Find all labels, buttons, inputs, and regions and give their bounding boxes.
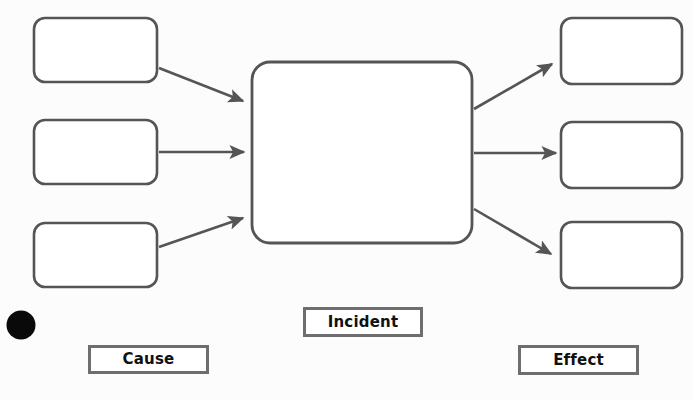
arrow-incident-to-effect-3 (474, 209, 551, 254)
diagram-canvas: Cause Incident Effect (0, 0, 693, 400)
cause-box-1[interactable] (34, 18, 157, 82)
arrow-cause-3-to-incident (159, 218, 243, 247)
legend-cause-box[interactable]: Cause (88, 345, 209, 374)
legend-effect-label: Effect (553, 353, 604, 368)
legend-incident-box[interactable]: Incident (303, 307, 423, 337)
legend-incident-label: Incident (328, 315, 399, 330)
cause-effect-diagram (0, 0, 693, 400)
arrow-cause-1-to-incident (159, 68, 243, 101)
incident-box[interactable] (252, 62, 472, 243)
legend-effect-box[interactable]: Effect (518, 345, 639, 375)
effect-box-1[interactable] (561, 18, 682, 84)
effect-box-2[interactable] (561, 122, 682, 188)
legend-cause-label: Cause (123, 352, 175, 367)
arrow-incident-to-effect-1 (474, 64, 552, 109)
effect-box-3[interactable] (561, 222, 682, 288)
bullet-marker (7, 311, 36, 340)
cause-box-2[interactable] (34, 120, 157, 184)
cause-box-3[interactable] (34, 223, 157, 287)
